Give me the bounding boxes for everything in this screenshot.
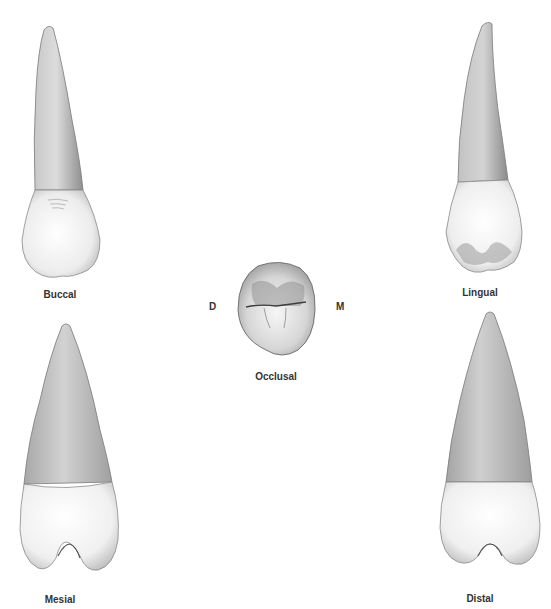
mesial-tooth-illustration bbox=[0, 310, 150, 590]
buccal-tooth-illustration bbox=[0, 0, 140, 300]
lingual-tooth-illustration bbox=[420, 0, 551, 300]
lingual-view: Lingual bbox=[420, 0, 551, 310]
distal-label: Distal bbox=[450, 593, 510, 604]
distal-tooth-illustration bbox=[400, 300, 551, 580]
distal-direction-label: D bbox=[209, 301, 216, 312]
buccal-label: Buccal bbox=[30, 289, 90, 300]
mesial-label: Mesial bbox=[30, 594, 90, 605]
mesial-direction-label: M bbox=[336, 301, 344, 312]
occlusal-view: D M Occlusal bbox=[200, 250, 360, 390]
occlusal-tooth-illustration bbox=[200, 250, 360, 390]
distal-view: Distal bbox=[400, 300, 551, 609]
occlusal-label: Occlusal bbox=[246, 371, 306, 382]
mesial-view: Mesial bbox=[0, 310, 150, 609]
buccal-view: Buccal bbox=[0, 0, 140, 300]
lingual-label: Lingual bbox=[450, 287, 510, 298]
